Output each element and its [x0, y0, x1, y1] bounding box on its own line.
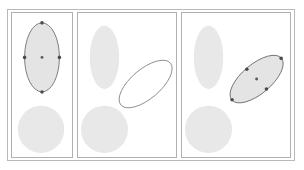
- handle-bottom[interactable]: [40, 90, 43, 94]
- static-circle[interactable]: [18, 106, 64, 153]
- figure-stage: [0, 0, 304, 170]
- handle-major-start[interactable]: [230, 98, 234, 102]
- handle-left[interactable]: [23, 56, 26, 60]
- static-ellipse[interactable]: [90, 26, 119, 89]
- panel-1-svg: [12, 13, 72, 157]
- panel-2-canvas[interactable]: [78, 13, 176, 157]
- panel-frame-3[interactable]: [181, 12, 291, 158]
- static-circle[interactable]: [185, 106, 232, 153]
- static-circle[interactable]: [81, 106, 128, 153]
- panel-3-canvas[interactable]: [182, 13, 290, 157]
- handle-major-end[interactable]: [279, 57, 283, 61]
- panel-1-canvas[interactable]: [12, 13, 72, 157]
- panel-2-svg: [78, 13, 176, 157]
- handle-center[interactable]: [41, 56, 44, 59]
- handle-center[interactable]: [255, 78, 258, 81]
- handle-minor-end[interactable]: [265, 87, 269, 91]
- rotation-preview-ellipse[interactable]: [111, 52, 176, 117]
- panel-frame-2[interactable]: [77, 12, 177, 158]
- handle-top[interactable]: [40, 21, 43, 25]
- panel-frame-1[interactable]: [11, 12, 73, 158]
- handle-minor-start[interactable]: [245, 67, 249, 71]
- handle-right[interactable]: [58, 56, 61, 60]
- static-ellipse[interactable]: [194, 26, 223, 89]
- panel-3-svg: [182, 13, 290, 157]
